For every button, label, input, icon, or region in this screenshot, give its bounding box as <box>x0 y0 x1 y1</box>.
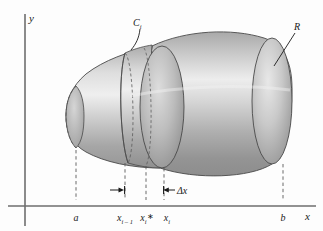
solid-of-revolution <box>66 32 292 176</box>
delta-x-label: Δx <box>176 185 188 196</box>
slice-leader-line <box>131 29 140 50</box>
x-axis-label: x <box>304 210 310 222</box>
region-label: R <box>293 21 300 32</box>
delta-x-left-arrowhead <box>119 187 125 192</box>
right-end-cap <box>252 38 292 164</box>
figure-solid-of-revolution: Δx Ci R y x axi – 1xi∗xib <box>0 0 323 231</box>
tick-label-b: b <box>281 212 286 223</box>
nose-tip-cap <box>66 86 84 148</box>
slice-label: Ci <box>133 17 142 30</box>
tick-label-x-i-minus-1: xi – 1 <box>116 212 133 225</box>
tick-labels-group: axi – 1xi∗xib <box>74 212 286 225</box>
tick-label-x-i: xi <box>163 212 170 225</box>
slice-front-face <box>140 46 184 168</box>
slice-label-sub: i <box>140 23 142 30</box>
tick-label-a: a <box>74 212 79 223</box>
tick-label-base: a <box>74 212 79 223</box>
tick-label-x-i-star: xi∗ <box>139 212 153 225</box>
delta-x-annotation: Δx <box>110 185 188 196</box>
diagram-canvas: Δx Ci R y x axi – 1xi∗xib <box>0 0 323 231</box>
tick-label-star: ∗ <box>147 212 154 221</box>
tick-label-base: b <box>281 212 286 223</box>
tick-label-subscript: i <box>168 218 170 225</box>
y-axis-label: y <box>28 12 34 24</box>
tick-label-subscript: i – 1 <box>121 218 133 225</box>
